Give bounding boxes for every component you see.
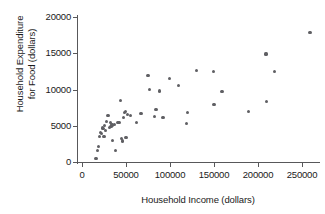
data-point bbox=[212, 103, 215, 106]
y-tick-mark bbox=[73, 162, 77, 163]
y-tick-label: 0 bbox=[11, 156, 71, 167]
x-tick-mark bbox=[258, 163, 259, 167]
data-point bbox=[154, 108, 157, 111]
x-axis-title: Household Income (dollars) bbox=[78, 194, 318, 205]
y-tick-mark bbox=[73, 126, 77, 127]
data-point bbox=[94, 157, 97, 160]
x-tick-mark bbox=[82, 163, 83, 167]
data-point bbox=[114, 149, 117, 152]
plot-area bbox=[78, 17, 319, 162]
data-point bbox=[124, 136, 127, 139]
y-tick-label: 20000 bbox=[11, 11, 71, 22]
data-point bbox=[264, 52, 267, 55]
y-tick-mark bbox=[73, 17, 77, 18]
data-point bbox=[161, 116, 164, 119]
x-tick-mark bbox=[126, 163, 127, 167]
data-point bbox=[212, 70, 215, 73]
data-point bbox=[158, 89, 161, 92]
data-point bbox=[139, 112, 142, 115]
y-tick-label: 10000 bbox=[11, 84, 71, 95]
data-point bbox=[153, 115, 156, 118]
data-point bbox=[247, 110, 250, 113]
x-tick-mark bbox=[302, 163, 303, 167]
y-tick-label: 15000 bbox=[11, 47, 71, 58]
data-point bbox=[146, 74, 149, 77]
x-tick-mark bbox=[170, 163, 171, 167]
data-point bbox=[102, 135, 105, 138]
x-tick-label: 250000 bbox=[272, 169, 325, 180]
y-tick-label: 5000 bbox=[11, 120, 71, 131]
scatter-plot-figure: Household Expenditure for Food (dollars)… bbox=[0, 0, 325, 214]
y-tick-mark bbox=[73, 53, 77, 54]
y-tick-mark bbox=[73, 90, 77, 91]
data-point bbox=[121, 139, 124, 142]
data-point bbox=[220, 90, 223, 93]
x-axis-line bbox=[77, 162, 320, 163]
data-point bbox=[168, 77, 171, 80]
x-tick-mark bbox=[214, 163, 215, 167]
data-point bbox=[308, 31, 311, 34]
